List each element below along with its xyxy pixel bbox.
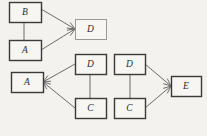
node-n6-c[interactable]: C (76, 99, 107, 119)
node-label: B (22, 7, 28, 17)
edge-n1-n3 (41, 9, 75, 29)
node-n8-c[interactable]: C (115, 99, 146, 119)
edge-n7-n9 (145, 64, 171, 86)
node-label: C (87, 103, 94, 113)
edge-n6-n4 (43, 82, 75, 108)
arrowhead-icon (67, 29, 75, 36)
arrowhead-icon (43, 76, 51, 82)
node-label: D (86, 24, 94, 34)
edge-n2-n3 (41, 29, 75, 50)
edge-n5-n4 (43, 64, 75, 82)
nodes-layer: BADADCDCE (10, 3, 202, 119)
arrowhead-icon (67, 22, 75, 29)
diagram-canvas: BADADCDCE (0, 0, 207, 136)
node-n2-a[interactable]: A (10, 41, 42, 61)
node-n7-d[interactable]: D (115, 55, 146, 75)
edge-line (43, 64, 75, 82)
node-n3-d[interactable]: D (76, 20, 107, 40)
edge-line (145, 64, 171, 86)
node-label: E (182, 81, 189, 91)
node-n4-a[interactable]: A (12, 73, 44, 93)
node-n1-b[interactable]: B (10, 3, 42, 23)
node-label: D (86, 59, 94, 69)
node-label: A (21, 45, 28, 55)
edge-n8-n9 (145, 86, 171, 108)
node-n5-d[interactable]: D (76, 55, 107, 75)
edge-line (41, 29, 75, 50)
node-label: C (126, 103, 133, 113)
graph-diagram: BADADCDCE (0, 0, 207, 136)
edge-line (43, 82, 75, 108)
node-label: D (125, 59, 133, 69)
edge-line (41, 9, 75, 29)
edge-line (145, 86, 171, 108)
node-label: A (23, 77, 30, 87)
node-n9-e[interactable]: E (172, 77, 202, 97)
